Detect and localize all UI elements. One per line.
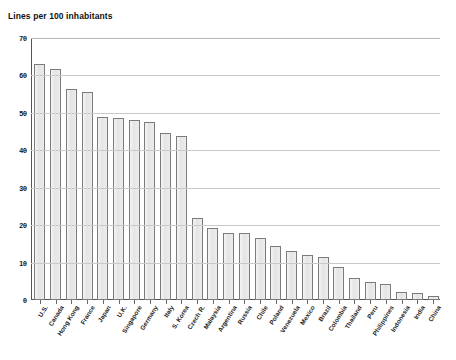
y-axis-tick-mark	[24, 188, 27, 189]
x-axis-labels: U.S.CanadaHong KongFranceJapanU.K.Singap…	[31, 304, 440, 360]
y-axis-tick-mark	[24, 300, 27, 301]
x-axis-tick-label: Brazil	[317, 304, 332, 323]
x-axis-tick-label: Italy	[162, 304, 175, 319]
gridline	[31, 188, 440, 189]
bar	[286, 251, 297, 300]
x-axis-tick-label: Russia	[236, 304, 253, 325]
bar	[333, 267, 344, 300]
gridline	[31, 113, 440, 114]
y-axis-tick-mark	[24, 38, 27, 39]
bar	[207, 228, 218, 300]
bar	[223, 233, 234, 300]
bar	[144, 122, 155, 300]
gridline	[31, 75, 440, 76]
bar	[66, 89, 77, 300]
bar	[129, 120, 140, 300]
chart-title: Lines per 100 inhabitants	[8, 11, 113, 21]
bar	[97, 117, 108, 300]
x-axis-tick-label: U.S.	[36, 304, 49, 318]
bar	[192, 218, 203, 300]
bar-series	[31, 38, 440, 300]
y-axis-tick-mark	[24, 75, 27, 76]
x-axis-tick-label: India	[412, 304, 426, 320]
y-axis: 010203040506070	[0, 38, 27, 300]
bar	[82, 92, 93, 300]
bar	[380, 284, 391, 300]
bar	[270, 246, 281, 300]
x-axis-tick-label: Mexico	[299, 304, 316, 326]
y-axis-tick-mark	[24, 150, 27, 151]
bar	[160, 133, 171, 300]
x-axis-tick-label: Chile	[255, 304, 269, 321]
y-axis-tick-mark	[24, 225, 27, 226]
bar	[396, 292, 407, 300]
gridline	[31, 150, 440, 151]
plot-area	[31, 38, 440, 300]
gridline	[31, 38, 440, 39]
gridline	[31, 225, 440, 226]
bar	[239, 233, 250, 300]
bar	[255, 238, 266, 300]
bar	[176, 136, 187, 300]
x-axis-tick-label: Peru	[366, 304, 379, 320]
chart-container: Lines per 100 inhabitants 01020304050607…	[0, 0, 456, 360]
x-axis-tick-label: Japan	[96, 304, 112, 323]
bar	[412, 293, 423, 300]
y-axis-tick-mark	[24, 263, 27, 264]
y-axis-tick-mark	[24, 113, 27, 114]
bar	[349, 278, 360, 300]
gridline	[31, 263, 440, 264]
bar	[113, 118, 124, 300]
bar	[34, 64, 45, 300]
x-axis-tick-label: U.K.	[115, 304, 128, 319]
x-axis-tick-label: France	[79, 304, 96, 325]
bar	[365, 282, 376, 300]
x-axis-tick-label: China	[427, 304, 442, 323]
bar	[50, 69, 61, 300]
